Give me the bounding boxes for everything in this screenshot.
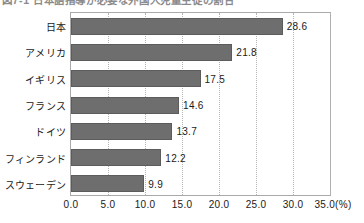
figure-caption-strip: 図7-1 日本語指導が必要な外国人児童生徒の割合 <box>0 0 364 8</box>
bar-row: 21.8 <box>71 44 330 61</box>
x-tick-label: 0.0 <box>64 199 79 210</box>
plot-area: 28.621.817.514.613.712.29.9 <box>70 12 331 196</box>
figure-caption: 図7-1 日本語指導が必要な外国人児童生徒の割合 <box>2 0 235 7</box>
bar-row: 13.7 <box>71 123 330 140</box>
x-tick-label: 15.0 <box>172 199 193 210</box>
gridline <box>330 13 331 195</box>
bar-value-label: 12.2 <box>165 152 186 163</box>
category-label: 日本 <box>46 19 66 34</box>
bar-row: 12.2 <box>71 149 330 166</box>
bar <box>71 123 172 140</box>
bar <box>71 44 232 61</box>
bar-value-label: 14.6 <box>183 100 204 111</box>
category-label: スウェーデン <box>5 177 66 192</box>
category-axis-labels: 日本アメリカイギリスフランスドイツフィンランドスウェーデン <box>0 12 66 196</box>
bar <box>71 149 161 166</box>
category-label: フランス <box>25 98 66 113</box>
bar-value-label: 13.7 <box>176 126 197 137</box>
bar <box>71 175 144 192</box>
bar-row: 28.6 <box>71 18 330 35</box>
bar <box>71 18 283 35</box>
value-axis-labels: 0.05.010.015.020.025.030.035.0(%) <box>0 199 364 215</box>
x-tick-label: 30.0 <box>283 199 304 210</box>
x-tick-label: 35.0(%) <box>314 199 351 210</box>
x-tick-label: 25.0 <box>246 199 267 210</box>
bar-value-label: 21.8 <box>236 47 257 58</box>
bar-value-label: 28.6 <box>287 21 308 32</box>
x-axis-unit: (%) <box>335 199 351 210</box>
bar <box>71 97 179 114</box>
bar <box>71 70 201 87</box>
x-tick-label: 5.0 <box>101 199 116 210</box>
bars-layer: 28.621.817.514.613.712.29.9 <box>71 13 330 195</box>
category-label: イギリス <box>25 72 66 87</box>
bar-row: 9.9 <box>71 175 330 192</box>
category-label: アメリカ <box>25 45 66 60</box>
bar-row: 17.5 <box>71 70 330 87</box>
x-tick-label: 20.0 <box>209 199 230 210</box>
bar-row: 14.6 <box>71 97 330 114</box>
category-label: ドイツ <box>35 124 66 139</box>
bar-value-label: 17.5 <box>205 73 226 84</box>
x-tick-label: 10.0 <box>135 199 156 210</box>
bar-chart-figure: 図7-1 日本語指導が必要な外国人児童生徒の割合 日本アメリカイギリスフランスド… <box>0 0 364 223</box>
bar-value-label: 9.9 <box>148 178 163 189</box>
category-label: フィンランド <box>5 151 66 166</box>
